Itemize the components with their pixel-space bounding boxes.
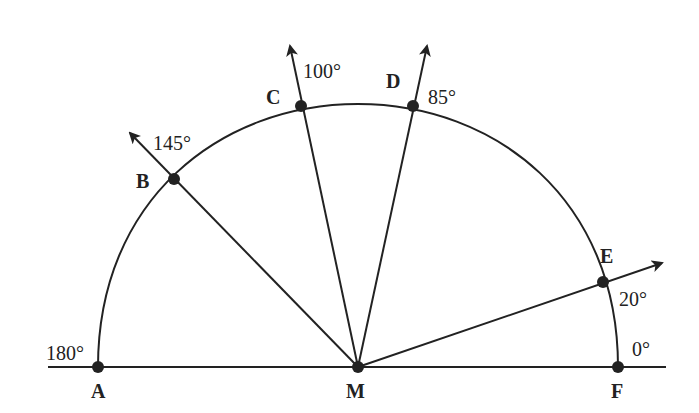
angle-label-100: 100° <box>303 60 341 82</box>
ray-md <box>358 46 427 367</box>
point-e <box>597 276 609 288</box>
angle-label-0: 0° <box>632 338 650 360</box>
angle-label-85: 85° <box>428 86 456 108</box>
label-a: A <box>91 380 106 402</box>
semicircle-angle-diagram: A B C D E F M 180° 145° 100° 85° 20° 0° <box>0 0 699 413</box>
label-f: F <box>611 380 623 402</box>
point-b <box>168 173 180 185</box>
point-a <box>92 361 104 373</box>
ray-mb <box>130 133 358 367</box>
label-c: C <box>266 86 280 108</box>
label-e: E <box>600 245 613 267</box>
point-f <box>612 361 624 373</box>
point-d <box>407 100 419 112</box>
label-d: D <box>386 70 400 92</box>
point-c <box>295 100 307 112</box>
angle-label-145: 145° <box>153 132 191 154</box>
angle-label-20: 20° <box>619 288 647 310</box>
angle-label-180: 180° <box>46 342 84 364</box>
ray-mc <box>290 46 358 367</box>
label-m: M <box>346 380 365 402</box>
point-m <box>352 361 364 373</box>
label-b: B <box>136 170 149 192</box>
ray-me <box>358 263 662 367</box>
